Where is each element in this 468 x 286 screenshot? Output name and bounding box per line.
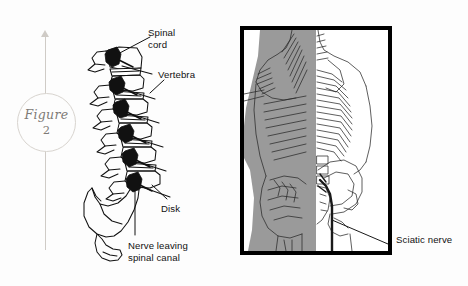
label-sciatic-nerve: Sciatic nerve bbox=[396, 234, 452, 246]
back-anatomy-illustration bbox=[244, 30, 388, 251]
label-disk: Disk bbox=[161, 203, 180, 215]
figure-page: Figure 2 bbox=[0, 0, 468, 286]
label-spinal-cord: Spinal cord bbox=[148, 27, 175, 50]
label-nerve-leaving-spinal-canal: Nerve leaving spinal canal bbox=[128, 240, 188, 263]
label-vertebra: Vertebra bbox=[158, 69, 195, 81]
torso-frame bbox=[240, 26, 392, 255]
